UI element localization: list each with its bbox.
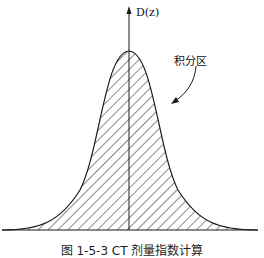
region-leader-line [175, 66, 196, 101]
integration-region-hatch [2, 51, 258, 230]
figure-caption: 图 1-5-3 CT 剂量指数计算 [0, 241, 264, 258]
d-axis-arrow-icon [127, 6, 132, 14]
integration-region-label: 积分区 [174, 52, 207, 68]
d-axis-label: D(z) [136, 6, 159, 19]
region-leader-arrow-icon [171, 97, 179, 104]
